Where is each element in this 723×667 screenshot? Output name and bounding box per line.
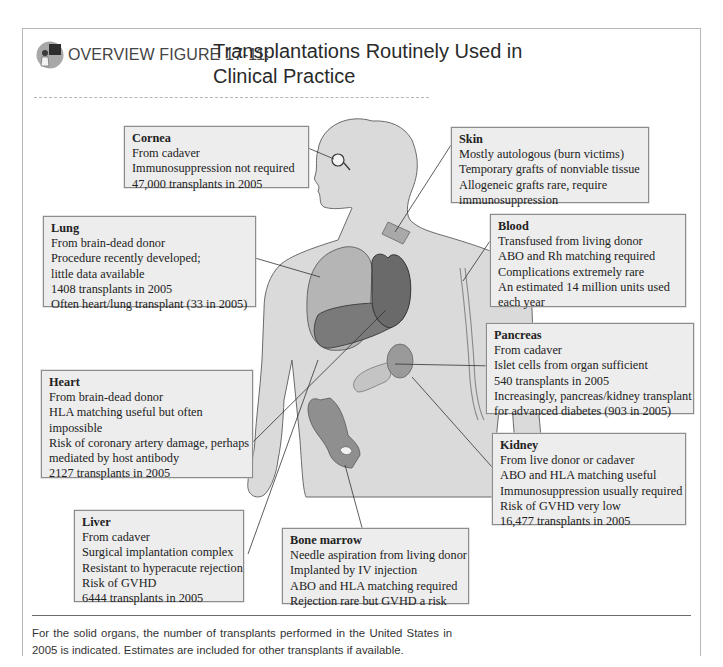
callout-title: Cornea [132, 131, 302, 146]
callout-pancreas: Pancreas From cadaver Islet cells from o… [486, 323, 694, 414]
callout-lung: Lung From brain-dead donor Procedure rec… [43, 216, 256, 307]
callout-title: Bone marrow [290, 533, 462, 548]
callout-blood: Blood Transfused from living donor ABO a… [490, 214, 686, 307]
figure-footnote: For the solid organs, the number of tran… [32, 625, 452, 659]
callout-liver: Liver From cadaver Surgical implantation… [74, 510, 244, 602]
callout-title: Skin [459, 132, 642, 147]
callout-title: Pancreas [494, 328, 687, 343]
callout-title: Liver [82, 515, 237, 530]
callout-title: Blood [498, 219, 679, 234]
callout-cornea: Cornea From cadaver Immunosuppression no… [124, 126, 309, 188]
footer-divider [32, 615, 691, 616]
callout-heart: Heart From brain-dead donor HLA matching… [41, 370, 253, 478]
callout-skin: Skin Mostly autologous (burn victims) Te… [451, 127, 649, 203]
callout-bone-marrow: Bone marrow Needle aspiration from livin… [282, 528, 469, 604]
kidney-organ [387, 344, 413, 378]
callout-title: Kidney [500, 438, 679, 453]
callout-kidney: Kidney From live donor or cadaver ABO an… [492, 433, 686, 525]
callout-title: Heart [49, 375, 246, 390]
callout-title: Lung [51, 221, 249, 236]
